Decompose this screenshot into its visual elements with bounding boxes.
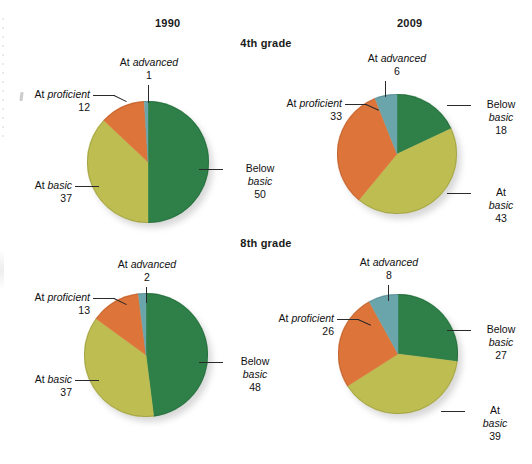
- leader-at-advanced-grade8-1990: [146, 287, 147, 303]
- label-below-basic-grade8-2009: Below basic 27: [473, 323, 529, 362]
- label-below-basic-grade4-2009: Below basic 18: [473, 98, 529, 137]
- leader-at-advanced-grade8-2009: [388, 285, 389, 301]
- column-header-1990: 1990: [155, 17, 180, 29]
- leader-at-basic-grade4-1990: [75, 186, 99, 187]
- leader-at-proficient-grade4-1990-h: [93, 95, 115, 96]
- pie-chart-grade4-2009: [337, 94, 457, 214]
- pie-chart-grade4-1990: [87, 101, 209, 223]
- pie-slice: [398, 294, 458, 362]
- leader-at-proficient-grade4-2009-h: [345, 104, 367, 105]
- leader-at-advanced-grade4-1990: [148, 85, 149, 103]
- figure-canvas: 1990 2009 4th grade 8th grade At advance…: [0, 0, 532, 464]
- leader-below-basic-grade8-2009: [447, 330, 471, 331]
- leader-at-proficient-grade8-2009-h: [337, 319, 359, 320]
- leader-at-advanced-grade4-2009: [385, 81, 386, 97]
- label-below-basic-grade4-1990: Below basic 50: [225, 162, 295, 201]
- column-header-2009: 2009: [397, 17, 422, 29]
- leader-at-basic-grade4-2009: [447, 193, 471, 194]
- label-at-advanced-grade8-2009: At advanced 8: [328, 256, 450, 282]
- row-header-8th-grade: 8th grade: [216, 237, 316, 249]
- label-at-proficient-grade8-1990: At proficient 13: [0, 291, 90, 317]
- leader-below-basic-grade4-1990: [199, 169, 223, 170]
- leader-below-basic-grade4-2009: [447, 105, 471, 106]
- label-at-basic-grade4-1990: At basic 37: [0, 179, 72, 205]
- leader-at-basic-grade8-1990: [75, 380, 99, 381]
- label-at-proficient-grade4-2009: At proficient 33: [250, 97, 342, 123]
- pie-slices-grade4-1990: [87, 101, 209, 223]
- row-header-4th-grade: 4th grade: [216, 37, 316, 49]
- label-at-basic-grade4-2009: At basic 43: [473, 186, 529, 225]
- label-at-basic-grade8-2009: At basic 39: [467, 404, 523, 443]
- pie-slices-grade4-2009: [337, 94, 457, 214]
- label-at-proficient-grade8-2009: At proficient 26: [242, 312, 334, 338]
- pie-chart-grade8-2009: [338, 294, 458, 414]
- pie-slice: [146, 293, 208, 417]
- pie-slices-grade8-1990: [84, 293, 208, 417]
- label-at-advanced-grade8-1990: At advanced 2: [86, 258, 208, 284]
- scan-artifact-smudge: [0, 250, 4, 290]
- label-at-proficient-grade4-1990: At proficient 12: [0, 88, 90, 114]
- pie-slices-grade8-2009: [338, 294, 458, 414]
- pie-slice: [148, 101, 209, 223]
- leader-at-proficient-grade8-1990-h: [93, 298, 115, 299]
- label-below-basic-grade8-1990: Below basic 48: [225, 355, 285, 394]
- label-at-basic-grade8-1990: At basic 37: [0, 373, 72, 399]
- scan-artifact-edge: [2, 18, 4, 138]
- label-at-advanced-grade4-1990: At advanced 1: [88, 56, 210, 82]
- label-at-advanced-grade4-2009: At advanced 6: [336, 52, 458, 78]
- leader-at-basic-grade8-2009: [441, 411, 465, 412]
- leader-below-basic-grade8-1990: [199, 362, 223, 363]
- pie-chart-grade8-1990: [84, 293, 208, 417]
